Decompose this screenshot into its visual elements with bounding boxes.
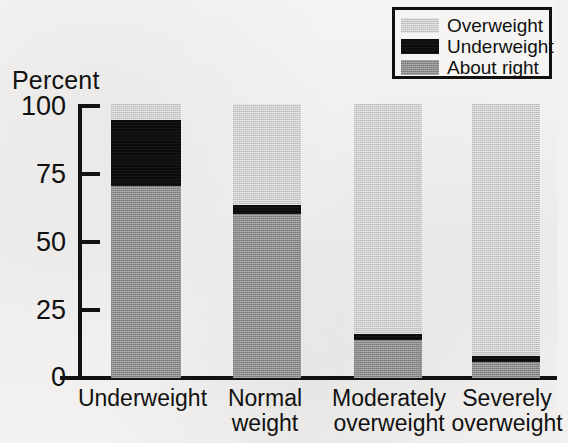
segment-underweight [111,120,181,186]
x-tick-label-underweight: Underweight [55,386,230,411]
legend-label-about-right: About right [447,58,539,77]
y-axis-tick-labels: 100 75 50 25 0 [0,0,66,443]
legend-item-overweight[interactable]: Overweight [401,15,543,35]
bar-moderately-overweight[interactable] [354,104,422,378]
segment-about-right [354,340,422,378]
plot-area [82,104,557,378]
y-tick-label-100: 100 [21,93,66,120]
x-tick-label-normal-weight: Normal weight [205,386,325,436]
y-tick-label-50: 50 [36,229,66,256]
about-right-swatch [401,60,439,75]
y-tick-label-25: 25 [36,297,66,324]
bar-underweight[interactable] [111,104,181,378]
segment-underweight [233,205,301,213]
x-tick-label-severely-overweight: Severely overweight [432,386,568,436]
y-tick-label-75: 75 [36,161,66,188]
overweight-swatch [401,18,439,33]
underweight-swatch [401,39,439,54]
bar-stack-normal-weight [233,104,301,378]
segment-overweight [354,104,422,334]
bar-stack-severely-overweight [472,104,540,378]
bar-stack-moderately-overweight [354,104,422,378]
segment-overweight [233,104,301,205]
legend-item-underweight[interactable]: Underweight [401,36,543,56]
bar-severely-overweight[interactable] [472,104,540,378]
segment-about-right [111,186,181,378]
segment-about-right [233,214,301,378]
bar-stack-underweight [111,104,181,378]
bar-normal-weight[interactable] [233,104,301,378]
legend: Overweight Underweight About right [392,7,552,79]
segment-overweight [472,104,540,356]
segment-overweight [111,104,181,120]
legend-label-overweight: Overweight [447,16,543,35]
segment-about-right [472,362,540,378]
legend-item-about-right[interactable]: About right [401,57,543,77]
legend-label-underweight: Underweight [447,37,554,56]
